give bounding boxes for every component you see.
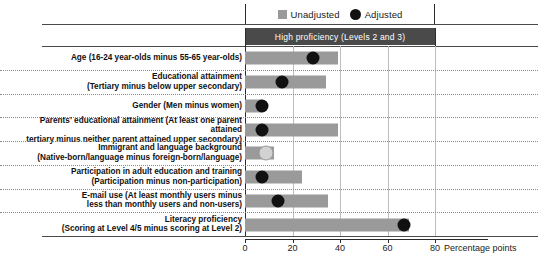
chart-row: Parents' educational attainment (At leas…: [0, 117, 538, 141]
chart-row: Gender (Men minus women): [0, 94, 538, 118]
unadjusted-bar: [245, 194, 328, 207]
adjusted-marker: [398, 218, 411, 231]
x-axis-unit-label: Percentage points: [444, 243, 517, 253]
row-plot-track: [245, 166, 435, 189]
legend-item-adjusted: Adjusted: [350, 9, 403, 20]
chart-legend: Unadjusted Adjusted: [245, 4, 435, 24]
panel-header: High proficiency (Levels 2 and 3): [245, 28, 435, 45]
chart-row: Age (16-24 year-olds minus 55-65 year-ol…: [0, 46, 538, 70]
x-axis-tick-label: 0: [242, 243, 247, 253]
chart-row: Participation in adult education and tra…: [0, 165, 538, 189]
adjusted-marker: [306, 51, 319, 64]
x-axis-tick-label: 20: [287, 243, 297, 253]
row-category-label: Participation in adult education and tra…: [14, 168, 242, 187]
row-category-label: Age (16-24 year-olds minus 55-65 year-ol…: [14, 53, 242, 63]
row-category-label: Educational attainment (Tertiary minus b…: [14, 73, 242, 92]
chart-root: Unadjusted Adjusted High proficiency (Le…: [0, 0, 538, 258]
adjusted-marker: [259, 146, 274, 161]
row-plot-track: [245, 118, 435, 141]
x-axis-ticks: 020406080: [245, 239, 435, 255]
rule-bottom: [42, 236, 538, 237]
row-plot-track: [245, 142, 435, 165]
rule-top: [42, 24, 538, 25]
adjusted-marker: [255, 99, 268, 112]
row-plot-track: [245, 95, 435, 118]
row-category-label: E-mail use (At least monthly users minus…: [14, 191, 242, 210]
chart-row: Immigrant and language background (Nativ…: [0, 141, 538, 165]
row-plot-track: [245, 46, 435, 70]
x-axis-tick-label: 80: [430, 243, 440, 253]
adjusted-marker: [275, 76, 288, 89]
adjusted-marker: [272, 194, 285, 207]
adjusted-marker: [255, 171, 268, 184]
row-category-label: Literacy proficiency (Scoring at Level 4…: [14, 215, 242, 234]
circle-swatch-icon: [350, 9, 361, 20]
legend-label-unadjusted: Unadjusted: [291, 9, 340, 20]
adjusted-marker: [255, 123, 268, 136]
chart-row: Educational attainment (Tertiary minus b…: [0, 70, 538, 94]
square-swatch-icon: [278, 10, 287, 19]
row-plot-track: [245, 190, 435, 213]
legend-item-unadjusted: Unadjusted: [278, 9, 340, 20]
row-plot-track: [245, 71, 435, 94]
chart-row: Literacy proficiency (Scoring at Level 4…: [0, 212, 538, 236]
x-axis-tick-label: 60: [382, 243, 392, 253]
row-plot-track: [245, 213, 435, 236]
row-category-label: Parents' educational attainment (At leas…: [14, 115, 242, 144]
unadjusted-bar: [245, 218, 409, 231]
legend-label-adjusted: Adjusted: [365, 9, 403, 20]
unadjusted-bar: [245, 171, 302, 184]
row-category-label: Immigrant and language background (Nativ…: [14, 144, 242, 163]
chart-row: E-mail use (At least monthly users minus…: [0, 189, 538, 213]
chart-rows: Age (16-24 year-olds minus 55-65 year-ol…: [0, 46, 538, 236]
x-axis-tick-label: 40: [335, 243, 345, 253]
unadjusted-bar: [245, 51, 338, 64]
row-category-label: Gender (Men minus women): [14, 101, 242, 111]
